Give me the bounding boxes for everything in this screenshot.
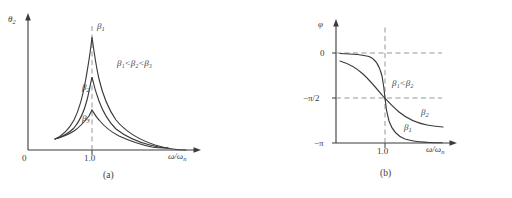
panel-b-x-tick-label: 1.0: [377, 146, 388, 156]
panel-a-axes: [28, 18, 196, 150]
curve-beta1: [55, 37, 186, 150]
panel-a-y-axis-label: θ2: [8, 15, 16, 24]
panel-b-y-tick-label-pi: −π: [314, 138, 324, 148]
panel-a: θ2 ω/ωn 0 1.0 β1 β2 β3 β₁<β₂<β₃ (a): [0, 0, 256, 198]
figure-root: θ2 ω/ωn 0 1.0 β1 β2 β3 β₁<β₂<β₃ (a): [0, 0, 512, 198]
panel-b-curve-label-beta2: β2: [421, 108, 429, 117]
panel-a-plot: [0, 0, 256, 198]
y-axis-arrowhead: [333, 19, 339, 27]
panel-b-caption: (b): [380, 168, 391, 178]
panel-a-curve-label-beta2: β2: [82, 83, 90, 92]
curve-beta3: [55, 110, 168, 148]
x-axis-arrowhead: [450, 140, 458, 146]
panel-b-y-tick-label-half-pi: −π/2: [303, 93, 320, 103]
panel-a-origin-label: 0: [22, 153, 27, 163]
panel-b: φ 0 −π/2 −π 1.0 ω/ωn β₁<β₂ β2 β1 (b): [256, 0, 512, 198]
panel-a-curve-label-beta1: β1: [97, 22, 105, 31]
panel-b-y-tick-label-0: 0: [320, 48, 325, 58]
panel-a-x-axis-label: ω/ωn: [168, 152, 186, 161]
panel-b-curve-label-beta1: β1: [404, 123, 412, 132]
panel-a-x-tick-label: 1.0: [84, 153, 95, 163]
panel-b-inequality-annotation: β₁<β₂: [392, 79, 413, 88]
x-axis-arrowhead: [194, 147, 202, 153]
panel-a-caption: (a): [103, 170, 114, 180]
y-axis-arrowhead: [25, 13, 31, 21]
panel-a-inequality-annotation: β₁<β₂<β₃: [117, 59, 152, 68]
panel-b-x-axis-label: ω/ωn: [426, 145, 444, 154]
panel-a-curve-label-beta3: β3: [82, 114, 90, 123]
panel-b-y-axis-label: φ: [318, 20, 323, 29]
